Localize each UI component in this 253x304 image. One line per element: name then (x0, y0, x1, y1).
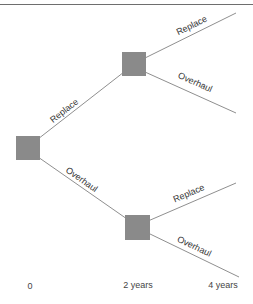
branch-root-overhaul (38, 157, 127, 219)
branch-label-upper-replace: Replace (175, 14, 209, 37)
branch-label-lower-replace: Replace (172, 182, 206, 204)
decision-node-lower (125, 215, 150, 240)
decision-tree-diagram: Replace Overhaul Replace Overhaul Replac… (0, 0, 253, 304)
timeline-label-4-years: 4 years (208, 280, 238, 290)
decision-node-upper (122, 52, 146, 76)
branch-root-replace (38, 72, 124, 139)
branch-label-root-overhaul: Overhaul (64, 165, 100, 194)
branch-label-upper-overhaul: Overhaul (177, 70, 214, 94)
decision-node-root (16, 136, 40, 160)
timeline-label-2-years: 2 years (123, 280, 153, 290)
branch-label-root-replace: Replace (48, 97, 80, 125)
timeline-label-0: 0 (27, 281, 32, 291)
